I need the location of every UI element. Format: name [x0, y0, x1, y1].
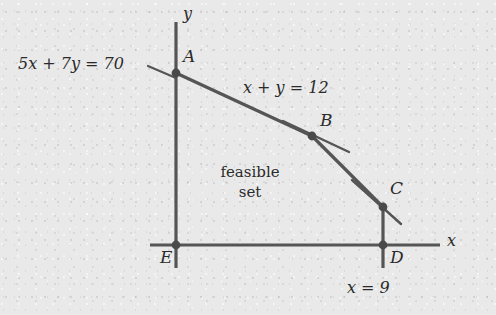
vertex-dot-a: [172, 69, 181, 78]
vertex-dot-b: [308, 132, 317, 141]
figure-canvas: y x 5x + 7y = 70 x + y = 12 x = 9 A B C …: [0, 0, 496, 315]
vertex-label-a: A: [183, 48, 195, 65]
constraint-label-5x-7y-70: 5x + 7y = 70: [18, 56, 124, 72]
vertex-dot-d: [379, 241, 388, 250]
feasible-set-annotation: feasible set: [205, 162, 295, 203]
feasible-set-annotation-line2: set: [205, 182, 295, 202]
vertex-dot-e: [172, 241, 181, 250]
y-axis-label: y: [183, 6, 192, 22]
constraint-segment-b-to-c: [312, 136, 383, 207]
x-axis-label: x: [447, 233, 456, 249]
constraint-label-x-plus-y-12: x + y = 12: [243, 80, 329, 96]
vertex-label-d: D: [390, 249, 404, 266]
vertex-dot-c: [379, 203, 388, 212]
vertex-label-b: B: [320, 112, 333, 129]
feasible-set-annotation-line1: feasible: [205, 162, 295, 182]
vertex-label-e: E: [160, 249, 172, 266]
feasible-set-plot: [0, 0, 496, 315]
vertex-label-c: C: [390, 180, 403, 197]
constraint-label-x-equals-9: x = 9: [347, 280, 390, 296]
